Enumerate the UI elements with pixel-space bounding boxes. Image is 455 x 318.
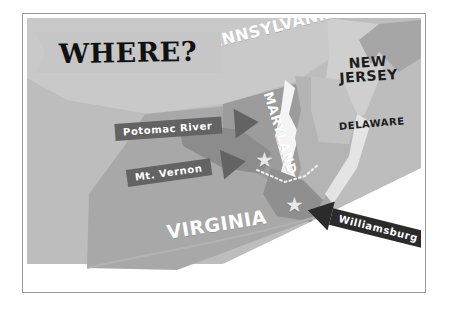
arrow-head-right-icon [220,146,248,179]
banner-title: WHERE? [35,30,222,74]
callout-potomac-river: Potomac River [114,124,115,141]
state-label-new-jersey: NEW JERSEY [338,54,398,85]
arrow-head-right-icon [234,107,260,139]
callout-label: Potomac River [123,120,213,137]
star-mount-vernon: ★ [255,150,274,171]
where-banner: WHERE? [35,32,221,73]
star-williamsburg: ★ [285,195,304,216]
map-illustration: PENNSYLVANIA MARYLAND VIRGINIA NEW JERSE… [0,0,455,318]
callout-williamsburg: Williamsburg [329,208,333,224]
map-canvas: PENNSYLVANIA MARYLAND VIRGINIA NEW JERSE… [27,18,421,286]
